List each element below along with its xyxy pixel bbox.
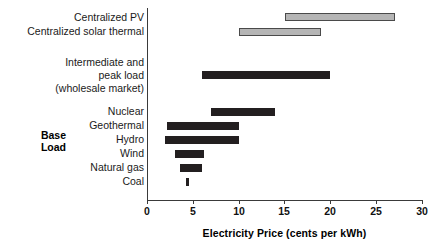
category-label-hydro: Hydro <box>116 133 144 146</box>
x-axis-title: Electricity Price (cents per kWh) <box>147 227 422 239</box>
x-tick-0 <box>147 200 148 204</box>
x-tick-20 <box>330 200 331 204</box>
category-label-natural-gas: Natural gas <box>90 161 144 174</box>
bar-hydro <box>165 136 238 144</box>
x-tick-label-30: 30 <box>407 205 437 217</box>
bar-centralized-solar-thermal <box>239 28 322 36</box>
x-tick-15 <box>284 200 285 204</box>
group-label-base: Base <box>0 129 66 142</box>
x-tick-label-10: 10 <box>224 205 254 217</box>
bar-coal <box>186 178 189 186</box>
x-tick-label-15: 15 <box>269 205 299 217</box>
bar-geothermal <box>167 122 239 130</box>
bar-natural-gas <box>180 164 202 172</box>
category-label-centralized-pv: Centralized PV <box>74 11 144 24</box>
bar-wind <box>175 150 204 158</box>
bar-nuclear <box>211 108 275 116</box>
category-label-coal: Coal <box>122 175 144 188</box>
category-label-geothermal: Geothermal <box>89 119 144 132</box>
x-tick-label-20: 20 <box>315 205 345 217</box>
category-label-intermediate-line2: peak load <box>98 69 144 82</box>
bar-centralized-pv <box>285 13 395 21</box>
x-tick-25 <box>376 200 377 204</box>
y-axis-line <box>147 8 148 200</box>
x-tick-10 <box>239 200 240 204</box>
category-label-wind: Wind <box>120 147 144 160</box>
x-tick-label-0: 0 <box>132 205 162 217</box>
bar-intermediate-peak-load <box>202 71 330 79</box>
range-bar-chart: Centralized PV Centralized solar thermal… <box>0 0 440 250</box>
x-tick-30 <box>422 200 423 204</box>
category-label-centralized-solar-thermal: Centralized solar thermal <box>27 25 144 38</box>
group-label-load: Load <box>0 141 66 154</box>
x-tick-label-5: 5 <box>178 205 208 217</box>
x-tick-5 <box>193 200 194 204</box>
x-tick-label-25: 25 <box>361 205 391 217</box>
category-label-nuclear: Nuclear <box>108 105 144 118</box>
category-label-intermediate-line3: (wholesale market) <box>55 82 144 95</box>
category-label-intermediate-line1: Intermediate and <box>65 56 144 69</box>
